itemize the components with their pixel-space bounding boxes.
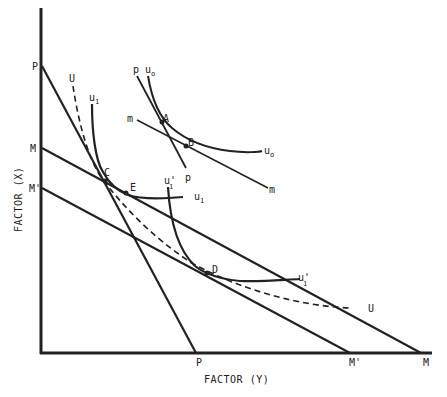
label-Mprime-yaxis: M'	[29, 183, 41, 194]
label-u1-right: u1	[194, 191, 204, 205]
label-M-xaxis: M	[423, 357, 429, 368]
line-m-m	[137, 120, 268, 188]
label-u0-right: uo	[264, 145, 274, 159]
line-Mprime-Mprime	[42, 188, 350, 353]
label-u1-top: u1	[89, 92, 99, 106]
line-M-M	[42, 148, 421, 353]
label-u0-top: uo	[145, 64, 155, 78]
label-P-xaxis: P	[196, 357, 202, 368]
economics-diagram: A B C E D P M M' P M' M p p m m U U uo u…	[0, 0, 447, 397]
label-A: A	[163, 113, 169, 124]
line-P-P	[42, 66, 196, 353]
label-m-right: m	[269, 184, 275, 195]
label-C: C	[104, 167, 110, 178]
label-B: B	[188, 137, 194, 148]
label-U-top: U	[69, 73, 75, 84]
label-D: D	[212, 264, 218, 275]
label-P-yaxis: P	[32, 61, 38, 72]
label-p-top: p	[133, 64, 139, 75]
x-axis-title: FACTOR (Y)	[204, 374, 269, 385]
y-axis-title: FACTOR (X)	[13, 167, 24, 232]
label-m-left: m	[127, 113, 133, 124]
point-E	[124, 191, 129, 196]
label-Mprime-xaxis: M'	[349, 357, 361, 368]
label-p-bottom: p	[185, 172, 191, 183]
label-u1prime-top: u'1	[164, 175, 176, 191]
point-D	[205, 271, 210, 276]
point-C	[103, 179, 108, 184]
label-E: E	[130, 182, 136, 193]
label-u1prime-right: u'1	[298, 272, 310, 288]
label-U-right: U	[368, 303, 374, 314]
label-M-yaxis: M	[30, 143, 36, 154]
